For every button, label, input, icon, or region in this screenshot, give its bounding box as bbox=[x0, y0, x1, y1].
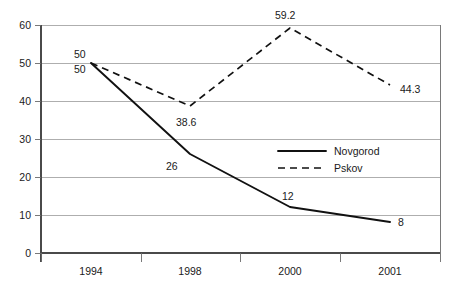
x-tick-label-2000: 2000 bbox=[278, 265, 302, 277]
x-tick-label-1994: 1994 bbox=[79, 265, 103, 277]
data-label-pskov-2001: 44.3 bbox=[400, 83, 421, 95]
x-tick-label-1998: 1998 bbox=[178, 265, 202, 277]
y-tick-label-10: 10 bbox=[19, 209, 31, 221]
y-tick-label-40: 40 bbox=[19, 95, 31, 107]
y-axis-tick-labels: 60 50 40 30 20 10 0 bbox=[19, 19, 31, 259]
legend-label-novgorod: Novgorod bbox=[334, 145, 380, 157]
y-tick-label-30: 30 bbox=[19, 133, 31, 145]
y-tick-label-50: 50 bbox=[19, 57, 31, 69]
y-tick-label-20: 20 bbox=[19, 171, 31, 183]
legend-label-pskov: Pskov bbox=[334, 162, 363, 174]
y-tick-marks bbox=[35, 25, 41, 253]
data-label-pskov-2000: 59.2 bbox=[275, 9, 296, 21]
data-label-novgorod-1998: 26 bbox=[166, 160, 178, 172]
data-label-novgorod-2001: 8 bbox=[398, 216, 404, 228]
data-label-novgorod-1994: 50 bbox=[74, 48, 86, 60]
data-label-pskov-1994: 50 bbox=[74, 63, 86, 75]
x-tick-label-2001: 2001 bbox=[378, 265, 402, 277]
chart-figure: 60 50 40 30 20 10 0 1994 1998 2000 2001 bbox=[0, 0, 454, 289]
data-label-pskov-1998: 38.6 bbox=[176, 116, 197, 128]
line-chart: 60 50 40 30 20 10 0 1994 1998 2000 2001 bbox=[0, 0, 454, 289]
y-tick-label-60: 60 bbox=[19, 19, 31, 31]
y-tick-label-0: 0 bbox=[25, 247, 31, 259]
data-label-novgorod-2000: 12 bbox=[282, 190, 294, 202]
x-tick-marks bbox=[41, 253, 440, 262]
x-axis-tick-labels: 1994 1998 2000 2001 bbox=[79, 265, 402, 277]
